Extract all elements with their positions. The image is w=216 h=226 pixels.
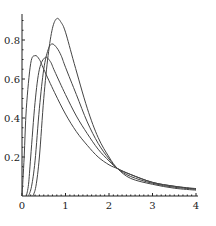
- y-tick-label: 0.2: [4, 152, 20, 163]
- x-tick-label: 0: [19, 200, 25, 211]
- x-tick-label: 3: [149, 200, 155, 211]
- chart-plot: 012340.20.40.60.8: [0, 0, 216, 226]
- series-curve-3: [29, 44, 196, 196]
- y-tick-label: 0.8: [4, 35, 20, 46]
- y-tick-label: 0.4: [4, 113, 20, 124]
- series-curve-4: [33, 18, 196, 196]
- series-curve-2: [26, 57, 196, 196]
- y-tick-label: 0.6: [4, 74, 20, 85]
- x-tick-label: 1: [62, 200, 68, 211]
- x-tick-label: 4: [193, 200, 199, 211]
- curves: [22, 18, 196, 196]
- x-tick-label: 2: [106, 200, 112, 211]
- axes: 012340.20.40.60.8: [4, 14, 199, 211]
- series-curve-1: [22, 55, 196, 196]
